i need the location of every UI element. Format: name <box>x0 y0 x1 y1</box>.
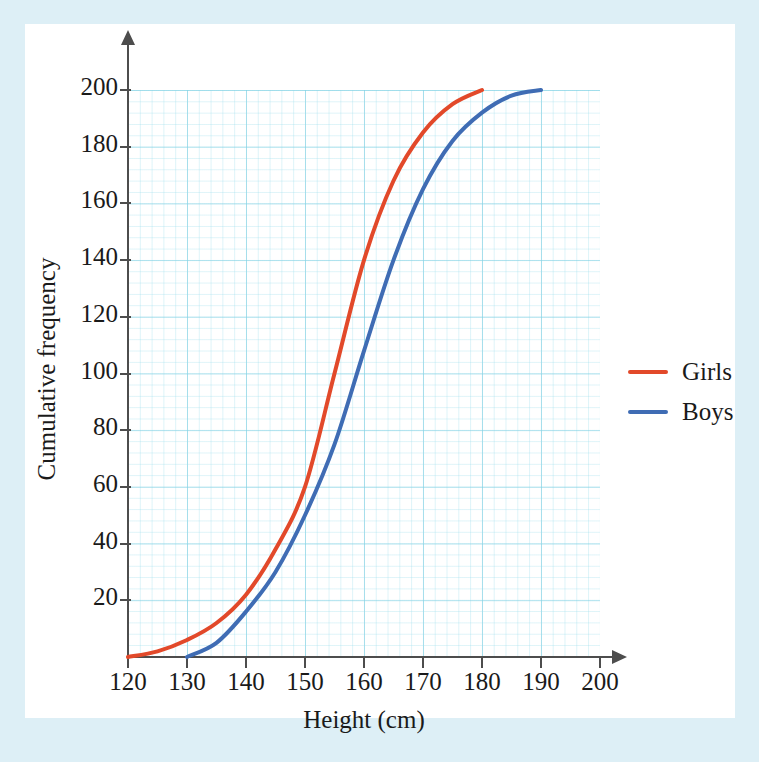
legend-item[interactable]: Boys <box>628 392 753 432</box>
legend-swatch-icon <box>628 410 668 414</box>
chart-page: 20406080100120140160180200 1201301401501… <box>0 0 759 762</box>
legend-label: Boys <box>682 398 733 426</box>
x-axis-title: Height (cm) <box>128 706 600 734</box>
chart-legend: GirlsBoys <box>628 352 753 432</box>
legend-label: Girls <box>682 358 732 386</box>
legend-swatch-icon <box>628 370 668 374</box>
series-line-boys <box>187 90 541 657</box>
y-axis-title: Cumulative frequency <box>33 204 61 534</box>
plot-area: 20406080100120140160180200 1201301401501… <box>0 0 759 762</box>
legend-item[interactable]: Girls <box>628 352 753 392</box>
